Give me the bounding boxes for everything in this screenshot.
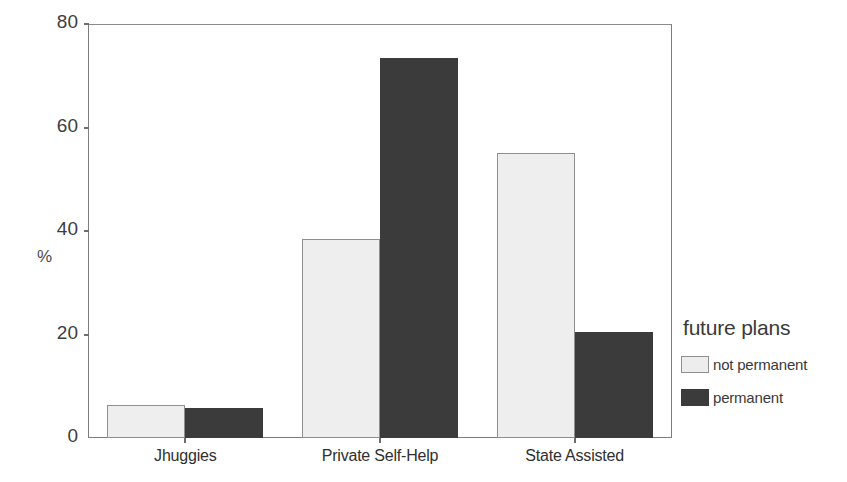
x-tick-label: State Assisted <box>525 447 624 465</box>
y-axis-label: % <box>8 247 52 267</box>
legend-title: future plans <box>683 316 841 340</box>
y-tick-label: 40 <box>30 218 78 240</box>
legend-item[interactable]: permanent <box>681 389 841 406</box>
bar-private-self-help-permanent <box>380 58 458 438</box>
y-tick-mark <box>84 230 89 232</box>
x-tick-mark <box>379 438 381 443</box>
bar-state-assisted-not-permanent <box>497 153 575 438</box>
x-tick-label: Jhuggies <box>154 447 216 465</box>
dark-swatch-icon <box>681 389 709 406</box>
x-tick-mark <box>184 438 186 443</box>
x-tick-mark <box>574 438 576 443</box>
legend: future plans not permanentpermanent <box>681 316 841 422</box>
y-tick-label: 80 <box>30 11 78 33</box>
bar-jhuggies-not-permanent <box>107 405 185 438</box>
bar-chart: % 020406080 JhuggiesPrivate Self-HelpSta… <box>0 0 847 482</box>
legend-item-label: permanent <box>713 389 783 406</box>
bar-private-self-help-not-permanent <box>302 239 380 438</box>
y-tick-mark <box>84 334 89 336</box>
y-tick-mark <box>84 23 89 25</box>
y-tick-mark <box>84 127 89 129</box>
y-tick-label: 60 <box>30 115 78 137</box>
legend-item[interactable]: not permanent <box>681 356 841 373</box>
light-swatch-icon <box>681 356 709 373</box>
y-tick-label: 20 <box>30 322 78 344</box>
bar-state-assisted-permanent <box>575 332 653 438</box>
x-tick-label: Private Self-Help <box>322 447 439 465</box>
legend-item-label: not permanent <box>713 356 807 373</box>
y-tick-label: 0 <box>30 425 78 447</box>
bar-jhuggies-permanent <box>185 408 263 438</box>
legend-items: not permanentpermanent <box>681 356 841 406</box>
